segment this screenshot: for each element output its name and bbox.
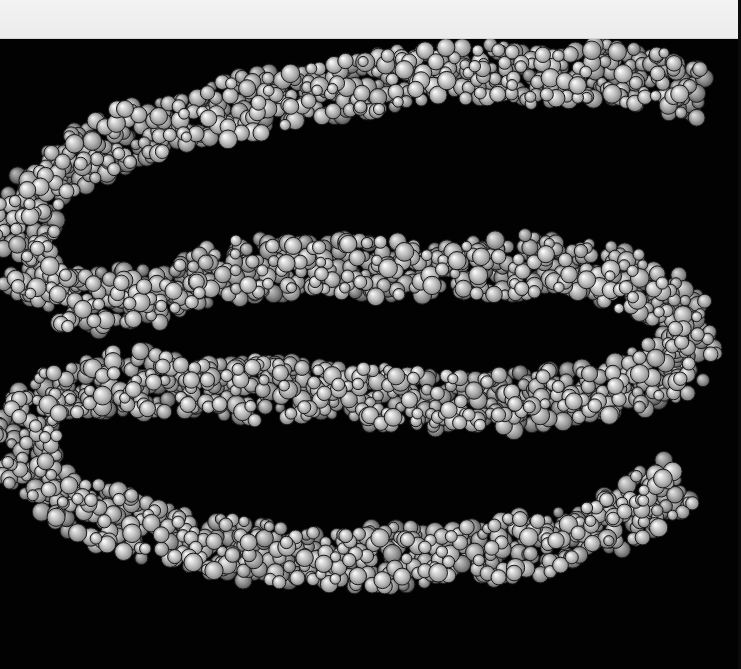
top-band xyxy=(0,0,741,39)
molecular-model-render xyxy=(0,39,741,669)
molecule-canvas xyxy=(0,39,741,669)
